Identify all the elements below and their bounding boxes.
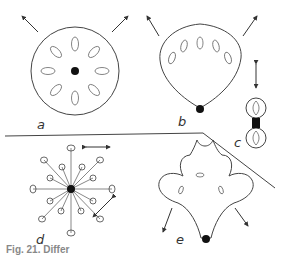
panel-label-e: e [176, 233, 184, 246]
panel-label-b: b [178, 115, 186, 128]
panel-b [147, 16, 257, 113]
panel-label-c: c [234, 136, 241, 149]
panel-label-a: a [37, 118, 45, 131]
figure-caption: Fig. 21. Differ [6, 244, 69, 255]
panel-a [22, 16, 128, 115]
panel-d [30, 145, 115, 236]
panel-c [246, 64, 266, 148]
panel-e [159, 140, 253, 243]
